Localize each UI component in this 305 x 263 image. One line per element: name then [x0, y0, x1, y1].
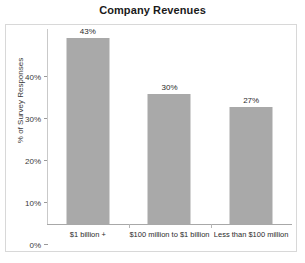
y-tick-20: 20% [6, 156, 48, 168]
bar[interactable] [148, 94, 191, 224]
y-tick-10: 10% [6, 198, 48, 210]
x-axis-labels: $1 billion +$100 million to $1 billionLe… [47, 228, 292, 246]
x-axis-label: $1 billion + [47, 228, 129, 242]
x-axis-line [47, 224, 292, 225]
bar[interactable] [230, 107, 273, 224]
y-tick-label-40: 40% [25, 73, 41, 82]
y-tick-label-10: 10% [25, 199, 41, 208]
x-axis-label: $100 million to $1 billion [129, 228, 211, 242]
bar-slot: 27% [210, 29, 292, 224]
y-axis-ticks: 40% 30% 20% 10% 0% [6, 24, 48, 252]
y-tick-30: 30% [6, 114, 48, 126]
chart-title: Company Revenues [0, 4, 305, 16]
bar[interactable] [66, 38, 109, 224]
y-tick-label-30: 30% [25, 115, 41, 124]
y-tick-label-0: 0% [29, 241, 41, 250]
bar-chart: Company Revenues % of Survey Responses 4… [0, 0, 305, 263]
y-tick-40: 40% [6, 72, 48, 84]
bar-value-label: 27% [243, 96, 259, 105]
y-tick-0: 0% [6, 240, 48, 252]
y-tick-label-20: 20% [25, 157, 41, 166]
bar-value-label: 43% [80, 27, 96, 36]
bar-series: 43%30%27% [47, 29, 292, 224]
bar-value-label: 30% [161, 83, 177, 92]
x-axis-label: Less than $100 million [210, 228, 292, 242]
bar-slot: 30% [129, 29, 211, 224]
bar-slot: 43% [47, 29, 129, 224]
